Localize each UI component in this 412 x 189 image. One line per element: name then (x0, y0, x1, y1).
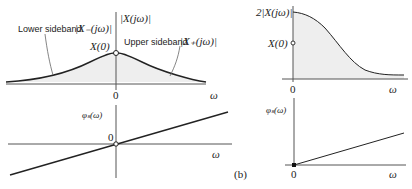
upper-sideband-label: Upper sideband (124, 37, 188, 47)
left-phase-x-label: ω (212, 148, 220, 160)
origin-marker (114, 142, 118, 146)
right-magnitude-y-label: 2|X(jω)| (256, 6, 292, 19)
peak-marker (114, 51, 119, 56)
left-magnitude-x-label: ω (210, 89, 218, 101)
right-phase-plot: φₛ(ω) 0 ω (266, 98, 406, 180)
lower-sideband-symbol: |X₋(jω)| (75, 22, 112, 35)
right-phase-y-label: φₛ(ω) (266, 105, 286, 115)
left-magnitude-y-label: |X(jω)| (120, 12, 151, 25)
left-magnitude-plot: |X(jω)| X(0) Lower sideband |X₋(jω)| Upp… (6, 12, 218, 101)
lower-sideband-leader (45, 34, 53, 75)
phase-line (294, 133, 404, 165)
upper-sideband-symbol: |X₊(jω)| (180, 35, 217, 48)
upper-sideband-leader (170, 46, 180, 76)
left-phase-plot: φₛ(ω) 0 ω (b) (8, 105, 247, 181)
right-phase-x-label: ω (389, 168, 397, 180)
right-magnitude-x-label: ω (389, 83, 397, 95)
right-magnitude-plot: 2|X(jω)| X(0) 0 ω (256, 6, 408, 95)
left-magnitude-origin: 0 (113, 89, 119, 101)
left-phase-origin: 0 (108, 131, 114, 143)
right-marker-label: X(0) (267, 37, 288, 50)
left-phase-y-label: φₛ(ω) (82, 110, 102, 120)
x0-marker (291, 41, 295, 45)
figure-label: (b) (234, 168, 247, 181)
left-peak-label: X(0) (89, 40, 110, 53)
right-phase-origin: 0 (291, 168, 297, 180)
origin-marker (292, 163, 296, 167)
right-magnitude-origin: 0 (290, 83, 296, 95)
lower-sideband-label: Lower sideband (18, 24, 82, 34)
spectrum-diagram: |X(jω)| X(0) Lower sideband |X₋(jω)| Upp… (0, 0, 412, 189)
